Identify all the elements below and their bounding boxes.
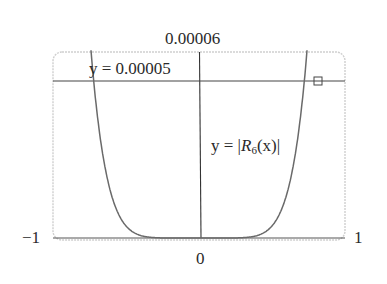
horizontal-line-label-text: y = 0.00005 <box>89 59 171 78</box>
curve-label: y = |R6(x)| <box>211 137 280 156</box>
x-max-tick-label: 1 <box>354 229 363 246</box>
curve-label-R: R <box>241 136 251 155</box>
y-max-tick-label: 0.00006 <box>165 30 220 47</box>
x-origin-tick-label: 0 <box>196 250 205 267</box>
x-min-tick-label: −1 <box>22 229 40 246</box>
horizontal-line-label: y = 0.00005 <box>89 60 171 77</box>
curve-label-prefix: y = | <box>211 136 241 155</box>
plot-frame <box>53 52 345 240</box>
curve-label-suffix: (x)| <box>257 136 280 155</box>
y-axis <box>200 52 202 238</box>
